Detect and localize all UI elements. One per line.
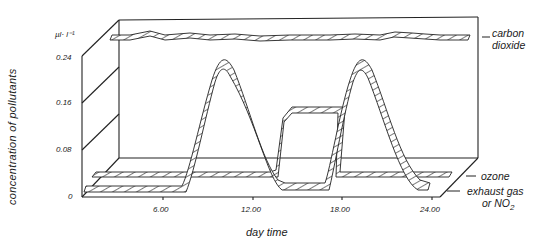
legend-co2-line2: dioxide [492, 39, 525, 51]
legend-leaders [0, 0, 557, 252]
legend-no2-line1: exhaust gas [467, 185, 524, 197]
legend-no2-subscript: 2 [510, 203, 514, 212]
legend-no2-line2: or NO2 [467, 197, 524, 214]
legend-no2-text: or NO [482, 197, 510, 209]
legend-co2-line1: carbon [492, 27, 525, 39]
legend-co2: carbon dioxide [492, 27, 525, 51]
legend-no2: exhaust gas or NO2 [467, 185, 524, 214]
legend-ozone: ozone [481, 170, 510, 182]
